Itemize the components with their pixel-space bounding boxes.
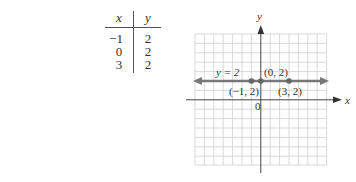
- left-arrow-icon: [193, 77, 202, 85]
- point-label: (−1, 2): [229, 85, 259, 98]
- point-label: (0, 2): [264, 66, 288, 79]
- x-axis-arrow-icon: [333, 97, 342, 104]
- y-axis-label: y: [256, 10, 262, 22]
- point-label: (3, 2): [278, 85, 302, 98]
- origin-label: 0: [255, 100, 261, 112]
- axes: [186, 25, 342, 173]
- coordinate-graph: x y 0 y = 2 (−1, 2) (0, 2) (3, 2): [0, 0, 356, 182]
- right-arrow-icon: [320, 77, 329, 85]
- y-axis-arrow-icon: [258, 25, 265, 34]
- line-label: y = 2: [215, 66, 240, 78]
- x-axis-label: x: [344, 94, 350, 106]
- point-neg1-2: [249, 78, 255, 84]
- point-0-2: [258, 78, 264, 84]
- point-3-2: [286, 78, 292, 84]
